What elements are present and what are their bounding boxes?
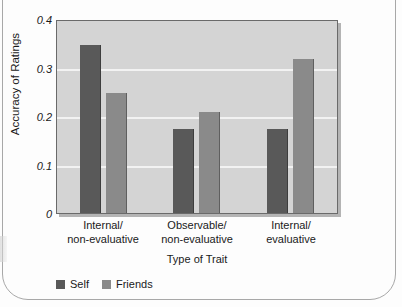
bars-container [57, 21, 337, 213]
bar-friends[interactable] [293, 59, 314, 213]
y-tick-label: 0 [22, 208, 52, 220]
bar-group [173, 21, 220, 213]
bar-chart: Accuracy of Ratings 0.4 0.3 0.2 0.1 0 [0, 0, 402, 307]
y-tick-label: 0.1 [22, 160, 52, 172]
x-category-line: Internal/ [244, 219, 338, 233]
bar-group [80, 21, 127, 213]
figure-container: Accuracy of Ratings 0.4 0.3 0.2 0.1 0 [0, 0, 402, 307]
bar-friends[interactable] [106, 93, 127, 213]
x-category-line: non-evaluative [56, 233, 150, 247]
bar-self[interactable] [173, 129, 194, 213]
legend-item-friends[interactable]: Friends [102, 278, 153, 290]
chart-legend: Self Friends [56, 278, 153, 290]
y-tick-label: 0.3 [22, 63, 52, 75]
bar-friends[interactable] [199, 112, 220, 213]
legend-swatch-icon [102, 280, 111, 289]
legend-label: Friends [116, 278, 153, 290]
x-axis-category-labels: Internal/ non-evaluative Observable/ non… [56, 219, 338, 246]
y-axis-tick-labels: 0.4 0.3 0.2 0.1 0 [20, 20, 52, 214]
bar-self[interactable] [80, 45, 101, 213]
x-category-label: Internal/ non-evaluative [56, 219, 150, 246]
x-axis-title: Type of Trait [56, 253, 338, 265]
legend-item-self[interactable]: Self [56, 278, 89, 290]
y-tick-label: 0.4 [22, 14, 52, 26]
x-category-label: Observable/ non-evaluative [150, 219, 244, 246]
legend-swatch-icon [56, 280, 65, 289]
y-tick-label: 0.2 [22, 111, 52, 123]
plot-area [56, 20, 338, 214]
legend-label: Self [70, 278, 89, 290]
x-category-label: Internal/ evaluative [244, 219, 338, 246]
bar-self[interactable] [267, 129, 288, 213]
bar-group [267, 21, 314, 213]
x-category-line: non-evaluative [150, 233, 244, 247]
x-category-line: Observable/ [150, 219, 244, 233]
x-category-line: Internal/ [56, 219, 150, 233]
x-category-line: evaluative [244, 233, 338, 247]
